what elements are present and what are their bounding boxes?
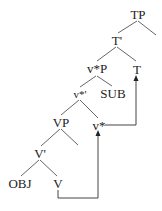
node-t-bar: T' [112,34,122,47]
node-sub: SUB [100,87,125,100]
node-tp: TP [130,8,145,21]
node-v-star-bar: v*' [74,89,87,100]
node-obj: OBJ [8,177,31,190]
node-t: T [133,63,141,76]
syntax-tree-diagram: TP T' v*P T v*' SUB VP v* V' OBJ V [0,0,162,211]
node-v-star: v* [93,119,106,132]
node-v-star-p: v*P [87,62,107,75]
node-vp: VP [53,116,70,129]
node-v: V [53,177,62,190]
node-v-bar: V' [34,147,46,160]
